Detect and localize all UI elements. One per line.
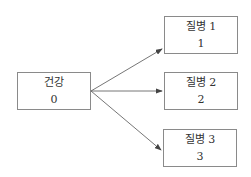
node-label: 질병 2: [186, 74, 217, 91]
node-disease3: 질병 3 3: [163, 129, 237, 167]
node-healthy: 건강 0: [17, 72, 91, 110]
node-value: 0: [51, 91, 58, 108]
node-value: 3: [197, 148, 204, 165]
node-label: 건강: [44, 74, 64, 91]
node-value: 2: [198, 91, 205, 108]
node-label: 질병 3: [185, 131, 216, 148]
node-value: 1: [198, 35, 205, 52]
node-disease1: 질병 1 1: [164, 16, 238, 54]
arrow-to-disease1: [91, 49, 162, 91]
arrow-to-disease3: [91, 91, 161, 150]
node-label: 질병 1: [186, 18, 217, 35]
node-disease2: 질병 2 2: [164, 72, 238, 110]
